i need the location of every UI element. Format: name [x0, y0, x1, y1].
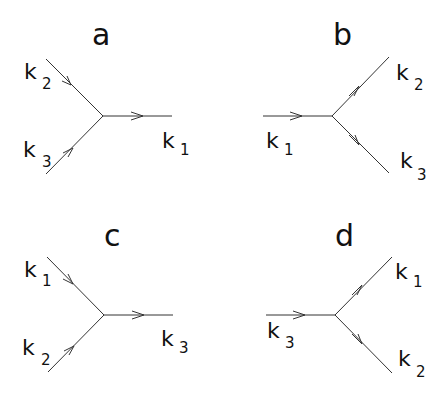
arrow-d-k2-icon — [352, 334, 362, 344]
panel-c-title: c — [104, 218, 121, 253]
label-c-k1-sub: 1 — [42, 272, 52, 290]
leg-c-k1 — [47, 257, 104, 315]
label-b-k3-sub: 3 — [417, 166, 427, 184]
label-b-k2-sub: 2 — [414, 76, 424, 94]
label-c-k3: k — [161, 326, 174, 351]
label-a-k1-sub: 1 — [180, 141, 190, 159]
arrow-b-k2-icon — [349, 86, 359, 96]
label-b-k3: k — [400, 148, 413, 173]
leg-d-k1 — [335, 257, 392, 315]
label-d-k3-sub: 3 — [285, 334, 295, 352]
vertex-diagram: a k 2 k 3 k 1 b k 1 k 2 k 3 c — [0, 0, 445, 395]
leg-d-k2 — [335, 315, 392, 373]
leg-a-k3 — [46, 116, 103, 174]
panel-b-title: b — [333, 17, 352, 52]
label-a-k3-sub: 3 — [42, 153, 52, 171]
label-c-k3-sub: 3 — [179, 339, 189, 357]
panel-b: b k 1 k 2 k 3 — [263, 17, 427, 184]
label-d-k1: k — [395, 259, 408, 284]
leg-a-k2 — [46, 59, 103, 116]
arrow-a-k2-icon — [62, 76, 71, 85]
label-d-k2-sub: 2 — [416, 363, 426, 381]
label-a-k2: k — [24, 59, 37, 84]
panel-a: a k 2 k 3 k 1 — [23, 17, 190, 174]
label-a-k3: k — [23, 137, 36, 162]
panel-d-title: d — [335, 218, 354, 253]
arrow-b-k3-icon — [349, 135, 359, 145]
panel-d: d k 3 k 1 k 2 — [266, 218, 426, 381]
leg-b-k2 — [332, 57, 389, 116]
label-c-k1: k — [24, 257, 37, 282]
label-b-k1: k — [266, 128, 279, 153]
label-d-k2: k — [398, 346, 411, 371]
label-b-k1-sub: 1 — [284, 141, 294, 159]
label-b-k2: k — [396, 60, 409, 85]
label-d-k1-sub: 1 — [413, 273, 423, 291]
label-a-k2-sub: 2 — [42, 75, 52, 93]
label-d-k3: k — [267, 318, 280, 343]
arrow-d-k1-icon — [352, 285, 362, 295]
label-c-k2-sub: 2 — [41, 351, 51, 369]
leg-c-k2 — [48, 315, 104, 372]
label-c-k2: k — [22, 335, 35, 360]
leg-b-k3 — [332, 116, 389, 173]
label-a-k1: k — [162, 128, 175, 153]
panel-c: c k 1 k 2 k 3 — [22, 218, 189, 372]
panel-a-title: a — [92, 17, 110, 52]
